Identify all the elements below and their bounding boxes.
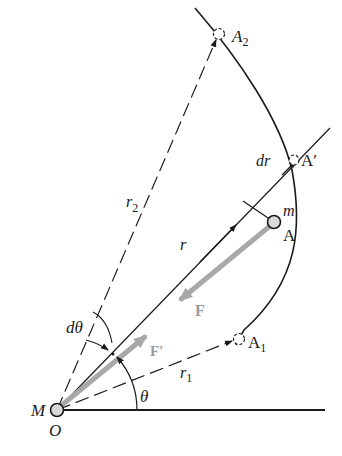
label-O: O <box>49 421 61 440</box>
label-r1: r1 <box>180 364 192 385</box>
particle-A2-circle <box>214 29 225 40</box>
dtheta-pointer <box>86 340 108 350</box>
dtheta-arc <box>93 312 112 343</box>
radius-r2-line <box>57 40 216 410</box>
theta-arc <box>117 357 137 410</box>
label-F: F <box>195 302 205 319</box>
central-force-diagram: A2 dr A′ m A F F′ A1 r1 r2 r dθ θ M O <box>0 0 342 456</box>
label-r: r <box>180 236 187 253</box>
label-A1: A1 <box>248 333 266 355</box>
label-A-prime: A′ <box>301 151 317 170</box>
radius-r-extended-line <box>57 128 330 410</box>
label-F-prime: F′ <box>150 343 163 359</box>
label-theta: θ <box>140 387 148 406</box>
diagram-svg: A2 dr A′ m A F F′ A1 r1 r2 r dθ θ M O <box>0 0 342 456</box>
trajectory-path <box>195 8 297 345</box>
dtheta-dot <box>112 353 115 356</box>
label-A: A <box>283 226 296 245</box>
origin-mass-circle <box>51 404 64 417</box>
label-r2: r2 <box>126 193 138 215</box>
particle-A-circle <box>268 216 281 229</box>
label-dtheta: dθ <box>66 318 83 337</box>
label-m: m <box>283 202 295 219</box>
label-A2: A2 <box>231 27 248 49</box>
particle-A-prime-circle <box>289 155 299 165</box>
label-M: M <box>30 401 46 420</box>
label-dr: dr <box>256 152 271 169</box>
particle-A1-circle <box>234 334 245 345</box>
